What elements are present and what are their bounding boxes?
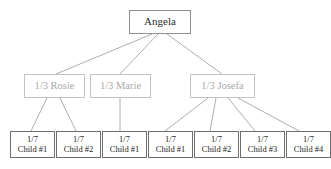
node-angela[interactable]: Angela (129, 10, 191, 34)
edge-rosie-child1 (31, 98, 47, 131)
node-rosie[interactable]: 1/3 Rosie (24, 74, 85, 98)
edge-josefa-child1 (165, 98, 208, 131)
edge-angela-marie (120, 34, 158, 74)
edge-angela-josefa (167, 34, 222, 74)
child-label: Child #1 (18, 145, 48, 154)
node-josefa-child-3[interactable]: 1/7 Child #3 (240, 131, 285, 158)
edge-josefa-child4 (238, 98, 299, 131)
node-rosie-child-2[interactable]: 1/7 Child #2 (56, 131, 101, 158)
edge-josefa-child3 (228, 98, 255, 131)
child-label: Child #3 (248, 145, 278, 154)
node-rosie-label: 1/3 Rosie (35, 80, 75, 91)
child-label: Child #1 (110, 145, 140, 154)
node-marie-child-1[interactable]: 1/7 Child #1 (102, 131, 147, 158)
node-angela-label: Angela (144, 16, 176, 28)
edge-angela-rosie (56, 34, 152, 74)
node-marie-label: 1/3 Marie (100, 80, 141, 91)
node-josefa-child-1[interactable]: 1/7 Child #1 (148, 131, 193, 158)
node-rosie-child-1[interactable]: 1/7 Child #1 (10, 131, 55, 158)
node-josefa-child-4[interactable]: 1/7 Child #4 (286, 131, 331, 158)
edge-rosie-child2 (60, 98, 76, 131)
child-label: Child #4 (294, 145, 324, 154)
child-label: Child #2 (202, 145, 232, 154)
node-josefa[interactable]: 1/3 Josefa (190, 74, 255, 98)
node-marie[interactable]: 1/3 Marie (90, 74, 151, 98)
edge-josefa-child2 (210, 98, 216, 131)
node-josefa-label: 1/3 Josefa (201, 80, 243, 91)
child-label: Child #2 (64, 145, 94, 154)
node-josefa-child-2[interactable]: 1/7 Child #2 (194, 131, 239, 158)
child-label: Child #1 (156, 145, 186, 154)
